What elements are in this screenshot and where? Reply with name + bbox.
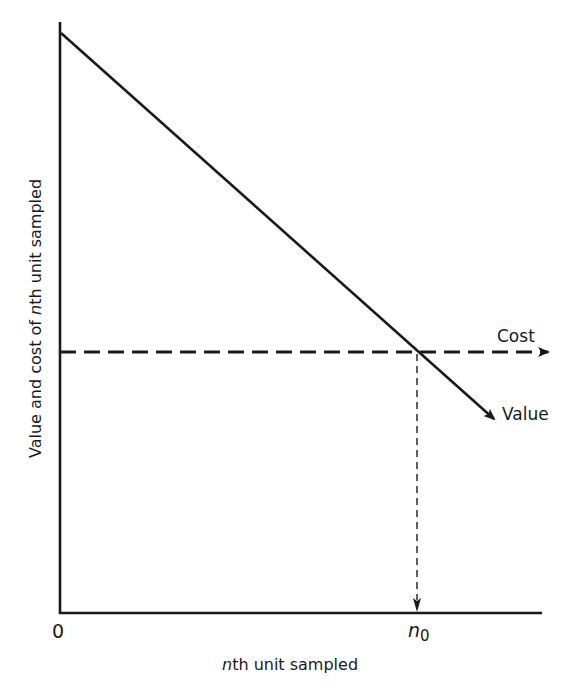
y-axis-title: Value and cost of nth unit sampled [26, 179, 45, 458]
value-line [61, 33, 494, 419]
n0-label: n0 [408, 619, 430, 645]
x-axis-title-n: n [222, 655, 232, 674]
y-axis-title-post: th unit sampled [26, 179, 45, 305]
origin-label: 0 [52, 620, 64, 642]
drop-arrowhead-icon [413, 598, 421, 612]
x-axis-title: nth unit sampled [222, 655, 358, 674]
value-label: Value [502, 404, 549, 424]
n0-subscript: 0 [420, 627, 430, 645]
x-axis-title-rest: th unit sampled [232, 655, 358, 674]
y-axis-title-pre: Value and cost of [26, 315, 45, 458]
y-axis-title-n: n [26, 305, 45, 315]
value-cost-diagram: Cost Value 0 n0 nth unit sampled Value a… [0, 0, 563, 691]
cost-label: Cost [497, 326, 535, 346]
n0-main: n [408, 619, 420, 641]
